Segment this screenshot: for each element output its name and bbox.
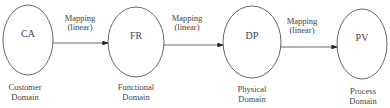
- node-dp-ellipse: [223, 6, 281, 78]
- edge-label-line2: (linear): [167, 23, 207, 32]
- domain-line2: Domain: [0, 92, 50, 102]
- node-dp-label: DP: [237, 30, 267, 41]
- domain-fr-label: Functional Domain: [106, 82, 166, 102]
- edge-dp-pv-label: Mapping (linear): [282, 17, 322, 35]
- edge-label-line2: (linear): [282, 26, 322, 35]
- domain-dp-label: Physical Domain: [222, 84, 282, 104]
- domain-pv-label: Process Domain: [336, 86, 390, 106]
- domain-line1: Functional: [106, 82, 166, 92]
- node-pv-ellipse: [337, 9, 387, 79]
- domain-line1: Physical: [222, 84, 282, 94]
- node-fr-label: FR: [121, 30, 151, 41]
- domain-line1: Process: [336, 86, 390, 96]
- edge-label-line2: (linear): [60, 23, 100, 32]
- edge-fr-dp-label: Mapping (linear): [167, 14, 207, 32]
- node-ca-label: CA: [13, 28, 43, 39]
- domain-line2: Domain: [336, 96, 390, 106]
- node-fr-ellipse: [108, 7, 164, 77]
- node-pv-label: PV: [347, 32, 377, 43]
- domain-line2: Domain: [222, 94, 282, 104]
- domain-line2: Domain: [106, 92, 166, 102]
- domain-line1: Customer: [0, 82, 50, 92]
- node-ca-ellipse: [3, 5, 53, 75]
- domain-ca-label: Customer Domain: [0, 82, 50, 102]
- edge-ca-fr-label: Mapping (linear): [60, 14, 100, 32]
